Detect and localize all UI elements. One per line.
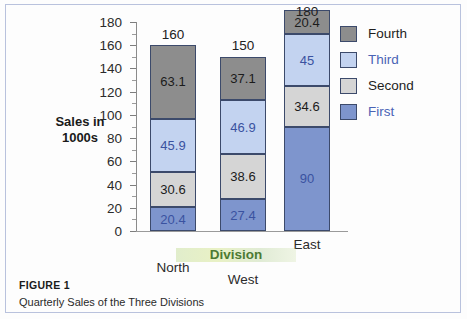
y-tick-minor bbox=[132, 127, 136, 128]
bar-segment-value-label: 20.4 bbox=[160, 213, 185, 226]
y-tick-label: 40 bbox=[107, 179, 122, 193]
y-tick-minor bbox=[132, 150, 136, 151]
bar-segment[interactable]: 46.9 bbox=[220, 100, 266, 154]
figure-caption-title: FIGURE 1 bbox=[19, 279, 204, 293]
bar-segment-value-label: 90 bbox=[300, 172, 314, 185]
y-tick-major: 120 bbox=[130, 92, 136, 93]
y-tick-minor bbox=[132, 196, 136, 197]
legend-item[interactable]: Third bbox=[340, 47, 414, 73]
plot-area: 020406080100120140160180 20.430.645.963.… bbox=[136, 22, 336, 231]
y-tick-label: 80 bbox=[107, 132, 122, 146]
y-tick-label: 180 bbox=[99, 16, 122, 30]
figure-caption: FIGURE 1 Quarterly Sales of the Three Di… bbox=[19, 279, 204, 309]
legend-color-swatch bbox=[340, 104, 357, 120]
y-tick-label: 60 bbox=[107, 156, 122, 170]
x-axis-title: Division bbox=[176, 248, 296, 262]
bar-segment[interactable]: 30.6 bbox=[150, 172, 196, 208]
y-tick-major: 0 bbox=[130, 231, 136, 232]
y-tick-minor bbox=[132, 34, 136, 35]
y-tick-label: 0 bbox=[114, 225, 122, 239]
bar-total-label: 160 bbox=[150, 28, 196, 42]
bar-segment-value-label: 27.4 bbox=[230, 209, 255, 222]
bar-segment[interactable]: 45 bbox=[284, 34, 330, 86]
x-category-label: North bbox=[136, 260, 210, 275]
y-tick-minor bbox=[132, 219, 136, 220]
y-tick-major: 40 bbox=[130, 185, 136, 186]
y-axis bbox=[136, 22, 137, 231]
y-tick-minor bbox=[132, 103, 136, 104]
bar-stack[interactable]: 9034.64520.4180East bbox=[284, 22, 330, 231]
legend-item[interactable]: Fourth bbox=[340, 21, 414, 47]
bar-segment[interactable]: 37.1 bbox=[220, 57, 266, 100]
legend-item[interactable]: Second bbox=[340, 73, 414, 99]
figure-container: Sales in 1000s 020406080100120140160180 … bbox=[0, 0, 467, 319]
bar-segment-value-label: 63.1 bbox=[160, 75, 185, 88]
bar-segment-value-label: 34.6 bbox=[294, 100, 319, 113]
y-tick-label: 100 bbox=[99, 109, 122, 123]
bar-segment[interactable]: 38.6 bbox=[220, 154, 266, 199]
bar-segment-value-label: 45 bbox=[300, 54, 314, 67]
bar-stack[interactable]: 27.438.646.937.1150West bbox=[220, 57, 266, 231]
legend-color-swatch bbox=[340, 52, 357, 68]
y-tick-label: 140 bbox=[99, 63, 122, 77]
bar-segment[interactable]: 90 bbox=[284, 127, 330, 232]
y-tick-label: 120 bbox=[99, 86, 122, 100]
bar-segment[interactable]: 45.9 bbox=[150, 119, 196, 172]
legend-color-swatch bbox=[340, 26, 357, 42]
bar-segment-value-label: 37.1 bbox=[230, 72, 255, 85]
legend-item-label: Third bbox=[368, 53, 399, 67]
chart-legend: FourthThirdSecondFirst bbox=[340, 21, 414, 125]
bar-segment-value-label: 46.9 bbox=[230, 121, 255, 134]
bar-segment[interactable]: 27.4 bbox=[220, 199, 266, 231]
stacked-bar-chart: Sales in 1000s 020406080100120140160180 … bbox=[0, 0, 467, 265]
y-tick-label: 160 bbox=[99, 39, 122, 53]
y-tick-major: 160 bbox=[130, 45, 136, 46]
y-tick-major: 100 bbox=[130, 115, 136, 116]
legend-item-label: Fourth bbox=[368, 27, 407, 41]
y-tick-minor bbox=[132, 57, 136, 58]
legend-item-label: Second bbox=[368, 79, 414, 93]
bar-stack[interactable]: 20.430.645.963.1160North bbox=[150, 45, 196, 231]
legend-item[interactable]: First bbox=[340, 99, 414, 125]
bar-total-label: 150 bbox=[220, 39, 266, 53]
y-tick-major: 60 bbox=[130, 161, 136, 162]
y-tick-label: 20 bbox=[107, 202, 122, 216]
x-axis bbox=[136, 231, 348, 232]
y-tick-minor bbox=[132, 80, 136, 81]
bar-segment[interactable]: 63.1 bbox=[150, 45, 196, 118]
bar-segment-value-label: 30.6 bbox=[160, 183, 185, 196]
legend-color-swatch bbox=[340, 78, 357, 94]
bar-total-label: 180 bbox=[284, 5, 330, 19]
figure-caption-text: Quarterly Sales of the Three Divisions bbox=[19, 295, 204, 310]
y-tick-major: 20 bbox=[130, 208, 136, 209]
bar-segment[interactable]: 34.6 bbox=[284, 86, 330, 126]
bar-segment-value-label: 45.9 bbox=[160, 139, 185, 152]
x-category-label: West bbox=[206, 272, 280, 287]
bar-segment-value-label: 38.6 bbox=[230, 170, 255, 183]
y-tick-minor bbox=[132, 173, 136, 174]
y-tick-major: 180 bbox=[130, 22, 136, 23]
bar-segment[interactable]: 20.4 bbox=[150, 207, 196, 231]
y-tick-major: 140 bbox=[130, 68, 136, 69]
y-tick-major: 80 bbox=[130, 138, 136, 139]
legend-item-label: First bbox=[368, 105, 394, 119]
